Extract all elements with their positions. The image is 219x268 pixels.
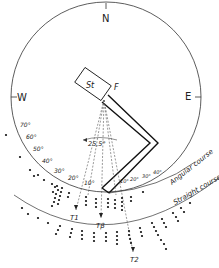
arrow-t1-label: T1 [70, 214, 79, 222]
feeder-label: F [114, 83, 119, 92]
angle-label: 25,5° [88, 140, 106, 148]
straight-course-dots [21, 202, 191, 250]
orientation-diagram: N W E St F 25,5° 70° 60° 50° 40° 30° 20°… [0, 0, 219, 268]
scale-left-40: 40° [42, 157, 53, 164]
scale-left-50: 50° [33, 145, 44, 152]
scale-right-20: 20° [130, 176, 139, 182]
east-label: E [185, 91, 191, 102]
start-box-label: St [86, 81, 95, 90]
scale-right-10: 10° [120, 178, 129, 184]
scale-right-40: 40° [153, 169, 162, 175]
north-label: N [102, 13, 109, 24]
scale-left-10: 10° [84, 179, 95, 186]
scale-left-60: 60° [26, 133, 37, 140]
compass-circle [11, 2, 201, 192]
scale-right-30: 30° [142, 173, 151, 179]
arrow-t2-label: T2 [130, 256, 139, 264]
scale-left-30: 30° [54, 167, 65, 174]
angular-course-dots [5, 134, 144, 211]
scale-left-70: 70° [20, 121, 31, 128]
west-label: W [17, 92, 27, 103]
scale-left-20: 20° [68, 174, 79, 181]
arrow-tb-label: Tβ [96, 222, 105, 230]
